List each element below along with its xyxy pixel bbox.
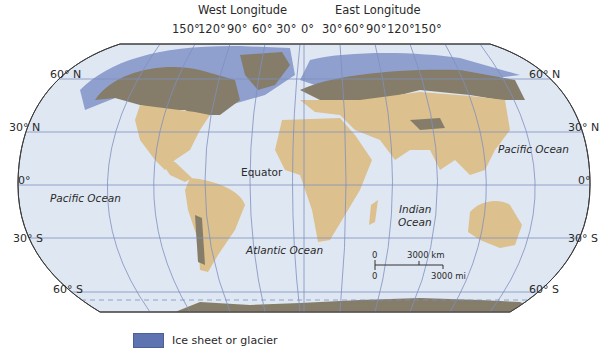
legend-label: Ice sheet or glacier bbox=[172, 334, 278, 347]
indian-ocean-label-line1: Indian bbox=[399, 203, 431, 215]
west-longitude-title: West Longitude bbox=[198, 3, 287, 17]
east-longitude-title: East Longitude bbox=[335, 3, 421, 17]
pacific-ocean-west-label: Pacific Ocean bbox=[50, 192, 121, 204]
scale-km-label: 3000 km bbox=[407, 250, 445, 260]
lat-left-60n: 60° N bbox=[50, 68, 81, 81]
lat-left-0: 0° bbox=[18, 174, 31, 187]
pacific-ocean-east-label: Pacific Ocean bbox=[498, 143, 569, 155]
lat-left-30n: 30° N bbox=[9, 121, 40, 134]
lat-left-30s: 30° S bbox=[13, 232, 43, 245]
lat-right-60n: 60° N bbox=[529, 68, 560, 81]
lon-tick-e60: 60° bbox=[344, 22, 364, 36]
scale-km-zero: 0 bbox=[372, 250, 377, 260]
lon-tick-w90: 90° bbox=[227, 22, 247, 36]
indian-ocean-label-line2: Ocean bbox=[398, 216, 432, 228]
lat-right-30s: 30° S bbox=[568, 232, 598, 245]
lon-tick-e120: 120° bbox=[387, 22, 415, 36]
scale-mi-zero: 0 bbox=[372, 271, 377, 281]
lat-right-0: 0° bbox=[578, 174, 591, 187]
lon-tick-e90: 90° bbox=[366, 22, 386, 36]
lat-left-60s: 60° S bbox=[53, 283, 83, 296]
lon-tick-w30: 30° bbox=[276, 22, 296, 36]
equator-label: Equator bbox=[241, 166, 282, 178]
lat-right-60s: 60° S bbox=[529, 283, 559, 296]
ice-sheet-swatch bbox=[133, 333, 164, 348]
legend: Ice sheet or glacier bbox=[133, 333, 278, 348]
antarctica bbox=[150, 298, 540, 330]
lon-tick-0: 0° bbox=[301, 22, 314, 36]
scale-mi-label: 3000 mi bbox=[431, 271, 466, 281]
world-map bbox=[0, 0, 608, 362]
lon-tick-w60: 60° bbox=[252, 22, 272, 36]
lat-right-30n: 30° N bbox=[568, 121, 599, 134]
lon-tick-w120: 120° bbox=[198, 22, 226, 36]
lon-tick-w150: 150° bbox=[172, 22, 200, 36]
atlantic-ocean-label: Atlantic Ocean bbox=[246, 244, 323, 256]
lon-tick-e30: 30° bbox=[322, 22, 342, 36]
lon-tick-e150: 150° bbox=[414, 22, 442, 36]
